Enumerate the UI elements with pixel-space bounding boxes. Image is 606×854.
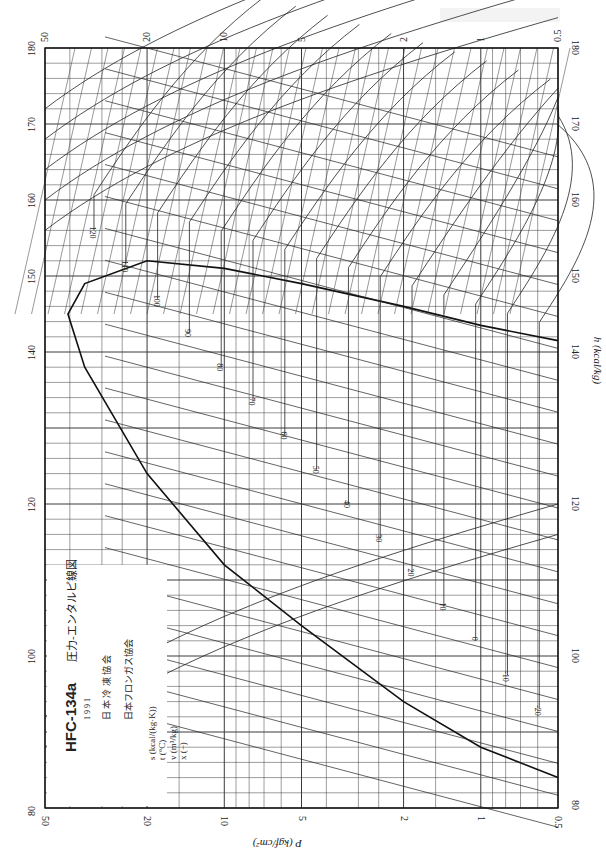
svg-text:150: 150: [570, 268, 581, 283]
svg-text:0.5: 0.5: [553, 816, 564, 829]
svg-text:80: 80: [26, 806, 37, 816]
specific-volume-lines: [15, 48, 570, 314]
svg-text:20: 20: [406, 568, 415, 576]
svg-text:160: 160: [26, 193, 37, 208]
svg-text:-10: -10: [501, 671, 510, 682]
svg-text:170: 170: [26, 117, 37, 132]
svg-text:120: 120: [88, 226, 97, 238]
svg-text:x (−): x (−): [178, 742, 188, 760]
svg-text:5: 5: [296, 37, 307, 42]
svg-text:150: 150: [26, 269, 37, 284]
svg-text:5: 5: [297, 816, 308, 821]
svg-text:1: 1: [476, 816, 487, 821]
svg-text:100: 100: [26, 649, 37, 664]
svg-text:t (°C): t (°C): [157, 740, 167, 760]
svg-text:20: 20: [142, 816, 153, 826]
svg-text:v (m³/kg): v (m³/kg): [168, 726, 178, 760]
svg-text:140: 140: [570, 344, 581, 359]
svg-text:日本フロンガス協会: 日本フロンガス協会: [123, 639, 134, 720]
svg-text:40: 40: [342, 500, 351, 508]
svg-text:50: 50: [40, 816, 51, 826]
svg-text:180: 180: [26, 41, 37, 56]
svg-text:0.5: 0.5: [552, 30, 563, 43]
svg-text:s (kcal/(kg·K)): s (kcal/(kg·K)): [147, 706, 157, 760]
svg-text:100: 100: [570, 648, 581, 663]
svg-text:80: 80: [570, 800, 581, 810]
svg-text:140: 140: [26, 345, 37, 360]
faded-header-text: [440, 8, 560, 22]
svg-text:10: 10: [219, 816, 230, 826]
svg-text:日 本 冷 凍 協 会: 日 本 冷 凍 協 会: [101, 655, 112, 720]
svg-text:50: 50: [39, 32, 50, 42]
svg-text:1 9 9 1: 1 9 9 1: [83, 698, 92, 720]
svg-text:HFC-134a: HFC-134a: [62, 682, 79, 752]
svg-text:90: 90: [183, 329, 192, 337]
svg-text:60: 60: [279, 432, 288, 440]
svg-text:-20: -20: [533, 705, 542, 716]
svg-text:80: 80: [215, 363, 224, 371]
svg-text:10: 10: [218, 32, 229, 42]
ph-chart-page: -20-100102030405060708090100110120505020…: [0, 0, 606, 854]
svg-text:圧力-エンタルピ線図: 圧力-エンタルピ線図: [65, 559, 78, 662]
svg-text:2: 2: [399, 816, 410, 821]
svg-text:180: 180: [570, 40, 581, 55]
svg-text:10: 10: [438, 603, 447, 611]
svg-text:120: 120: [26, 497, 37, 512]
svg-text:0: 0: [470, 637, 479, 641]
svg-text:160: 160: [570, 192, 581, 207]
svg-text:120: 120: [570, 496, 581, 511]
svg-text:2: 2: [398, 37, 409, 42]
svg-text:70: 70: [247, 397, 256, 405]
svg-text:h (kcal/kg): h (kcal/kg): [591, 337, 604, 385]
svg-text:30: 30: [374, 534, 383, 542]
svg-text:1: 1: [475, 37, 486, 42]
ph-diagram: -20-100102030405060708090100110120505020…: [0, 0, 606, 854]
svg-text:50: 50: [311, 466, 320, 474]
svg-text:P (kgf/cm²): P (kgf/cm²): [252, 837, 303, 850]
svg-text:20: 20: [141, 32, 152, 42]
svg-text:170: 170: [570, 116, 581, 131]
